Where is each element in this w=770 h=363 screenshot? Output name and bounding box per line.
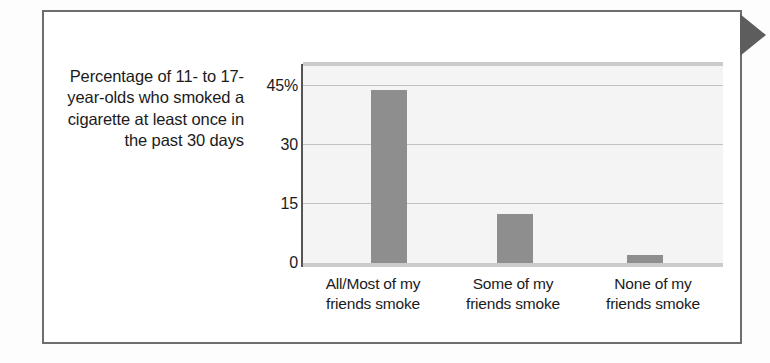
x-axis-category-labels: All/Most of myfriends smokeSome of myfri… [303, 274, 723, 324]
y-tick-label-15: 15 [244, 195, 298, 213]
bar-1 [497, 214, 533, 263]
bar-chart: Percentage of 11- to 17-year-olds who sm… [0, 0, 770, 363]
x-category-label-1-line-0: Some of my [443, 274, 583, 294]
caption-line-2: who smoked a [139, 88, 244, 106]
x-category-label-2-line-1: friends smoke [583, 294, 723, 314]
y-tick-label-0: 0 [244, 254, 298, 272]
x-category-label-0-line-0: All/Most of my [303, 274, 443, 294]
y-tick-label-45: 45% [244, 77, 298, 95]
caption-line-5: 30 days [187, 131, 244, 149]
bar-2 [627, 255, 663, 263]
y-tick-label-30: 30 [244, 136, 298, 154]
x-category-label-1: Some of myfriends smoke [443, 274, 583, 324]
bars-layer [303, 62, 723, 267]
caption-line-0: Percentage of [70, 67, 171, 85]
x-category-label-2: None of myfriends smoke [583, 274, 723, 324]
plot-area [303, 62, 723, 267]
x-category-label-0-line-1: friends smoke [303, 294, 443, 314]
y-axis-caption: Percentage of 11- to 17-year-olds who sm… [62, 66, 244, 152]
figure-root: Percentage of 11- to 17-year-olds who sm… [0, 0, 770, 363]
x-category-label-2-line-0: None of my [583, 274, 723, 294]
x-category-label-0: All/Most of myfriends smoke [303, 274, 443, 324]
bar-0 [371, 90, 407, 263]
caption-line-3: cigarette at least [68, 110, 187, 128]
x-category-label-1-line-1: friends smoke [443, 294, 583, 314]
y-axis-tick-labels: 0153045% [244, 0, 298, 363]
